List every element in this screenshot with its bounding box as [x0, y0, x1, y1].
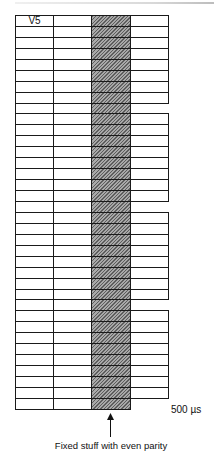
- fixed-stuff-cell: [91, 398, 131, 410]
- arrow-up-icon: [106, 413, 115, 437]
- frame-grid: V5: [15, 15, 168, 409]
- frame-cell: [130, 289, 169, 300]
- duration-label: 500 µs: [171, 404, 201, 415]
- frame-cell: [15, 398, 54, 410]
- frame-cell: [53, 398, 92, 410]
- frame-cell: [130, 387, 169, 399]
- frame-cell: [130, 92, 169, 104]
- v5-label: V5: [16, 15, 53, 26]
- fixed-stuff-caption: Fixed stuff with even parity: [0, 440, 214, 451]
- scan-artifact-line: [15, 2, 214, 4]
- frame-cell: [130, 190, 169, 202]
